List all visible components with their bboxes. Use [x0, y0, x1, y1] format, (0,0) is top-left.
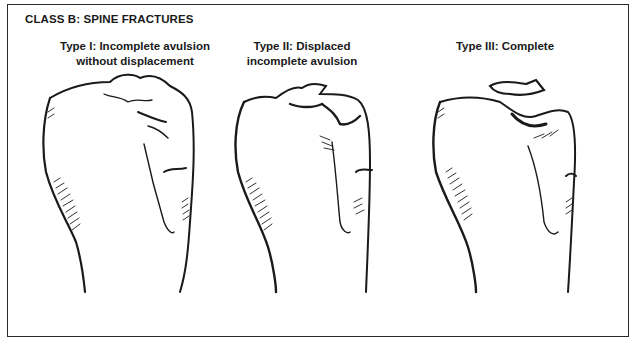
tibia-type-1-illustration	[40, 72, 220, 322]
tibia-type-3-illustration	[430, 72, 610, 322]
panel-label-type-2: Type II: Displaced incomplete avulsion	[232, 39, 372, 69]
tibia-type-2-illustration	[230, 72, 410, 322]
panel-label-type-1: Type I: Incomplete avulsion without disp…	[40, 39, 230, 69]
figure-title: CLASS B: SPINE FRACTURES	[25, 13, 194, 25]
panel-label-type-3: Type III: Complete	[440, 39, 570, 54]
